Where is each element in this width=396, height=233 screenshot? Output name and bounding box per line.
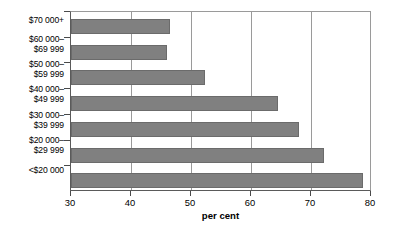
x-axis-tick-70 bbox=[310, 191, 311, 196]
x-axis-tick-80 bbox=[370, 191, 371, 196]
x-axis-tick-50 bbox=[190, 191, 191, 196]
x-axis-label-80: 80 bbox=[350, 197, 390, 208]
bar-1 bbox=[71, 45, 167, 60]
y-axis-label-5: $20 000– $29 999 bbox=[0, 136, 64, 155]
x-axis-tick-30 bbox=[70, 191, 71, 196]
x-axis-title: per cent bbox=[70, 210, 371, 221]
x-axis-label-30: 30 bbox=[50, 197, 90, 208]
bar-6 bbox=[71, 173, 363, 188]
x-axis-label-50: 50 bbox=[170, 197, 210, 208]
x-axis-label-70: 70 bbox=[290, 197, 330, 208]
y-axis-label-1: $60 000– $69 999 bbox=[0, 35, 64, 54]
x-axis-tick-40 bbox=[130, 191, 131, 196]
y-axis-label-2: $50 000– $59 999 bbox=[0, 60, 64, 79]
x-axis-label-60: 60 bbox=[230, 197, 270, 208]
y-axis-label-6: <$20 000 bbox=[0, 166, 64, 176]
bar-4 bbox=[71, 122, 299, 137]
plot-area bbox=[70, 11, 371, 191]
bar-2 bbox=[71, 70, 205, 85]
bar-3 bbox=[71, 96, 278, 111]
bar-0 bbox=[71, 19, 170, 34]
x-axis-tick-60 bbox=[250, 191, 251, 196]
y-axis-labels: $70 000+ $60 000– $69 999 $50 000– $59 9… bbox=[0, 12, 64, 180]
y-axis-label-4: $30 000– $39 999 bbox=[0, 111, 64, 130]
bar-5 bbox=[71, 148, 324, 163]
bar-chart: $70 000+ $60 000– $69 999 $50 000– $59 9… bbox=[0, 0, 396, 233]
y-axis-label-0: $70 000+ bbox=[0, 16, 64, 26]
x-axis-label-40: 40 bbox=[110, 197, 150, 208]
y-axis-label-3: $40 000– $49 999 bbox=[0, 85, 64, 104]
gridline-70 bbox=[311, 12, 312, 190]
